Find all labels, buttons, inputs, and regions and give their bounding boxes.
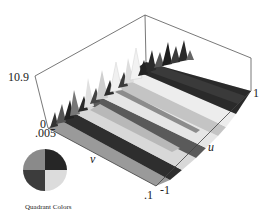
- v-max-tick: .1: [144, 189, 153, 201]
- surface: [48, 62, 251, 186]
- legend-title: Quadrant Colors: [25, 203, 71, 211]
- u-min-tick: -1: [160, 184, 170, 196]
- u-axis-label: u: [208, 141, 214, 153]
- z-max-tick: 10.9: [8, 71, 29, 83]
- v-axis-label: v: [90, 153, 95, 165]
- u-max-tick: 1: [253, 87, 259, 99]
- v-min-tick: .005: [35, 127, 56, 139]
- quadrant-legend: [23, 149, 67, 191]
- surface-plot: [0, 0, 266, 219]
